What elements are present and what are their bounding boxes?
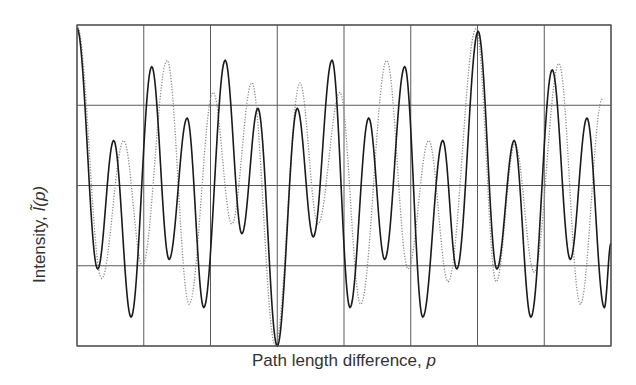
x-axis-label: Path length difference, p (0, 351, 636, 371)
x-axis-label-text: Path length difference, (252, 351, 427, 370)
y-axis-label-text: Intensity, (30, 212, 49, 284)
interference-chart (0, 0, 636, 385)
y-axis-label-variable: Ĩ(p) (30, 186, 49, 212)
gridlines (77, 25, 611, 346)
y-axis-label: Intensity, Ĩ(p) (30, 186, 50, 283)
x-axis-label-variable: p (427, 351, 436, 370)
